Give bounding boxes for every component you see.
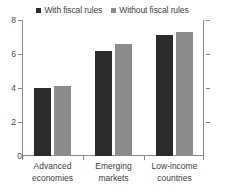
y-tick-8: 8 (2, 15, 22, 25)
x-label-advanced-economies: Advanced economies (22, 161, 83, 184)
bars-layer (22, 20, 204, 156)
y-tick-dash-right-8 (206, 20, 210, 21)
legend-label: With fiscal rules (44, 6, 102, 15)
bar-without-fiscal-rules (54, 86, 71, 156)
legend-swatch-icon (36, 8, 41, 13)
x-axis-separator-tick (144, 156, 145, 160)
y-tick-4: 4 (2, 83, 22, 93)
y-tick-dash-right-2 (206, 122, 210, 123)
bar-without-fiscal-rules (176, 32, 193, 156)
y-tick-0: 0 (2, 151, 22, 161)
y-tick-dash-right-6 (206, 54, 210, 55)
x-label-line2: countries (144, 173, 205, 185)
x-label-low-income-countries: Low-income countries (144, 161, 205, 184)
x-label-line2: markets (83, 173, 144, 185)
y-tick-label: 6 (11, 50, 16, 59)
y-tick-label: 8 (11, 16, 16, 25)
legend-swatch-icon (111, 8, 116, 13)
plot-area: 0 2 4 6 8 (22, 20, 204, 156)
y-tick-6: 6 (2, 49, 22, 59)
x-label-line2: economies (22, 173, 83, 185)
bar-with-fiscal-rules (95, 51, 112, 156)
legend-entry-with-fiscal-rules: With fiscal rules (36, 6, 102, 15)
y-tick-2: 2 (2, 117, 22, 127)
x-label-line1: Low-income (144, 161, 205, 173)
bar-group-low-income-countries (151, 20, 198, 156)
x-axis-separator-tick (22, 156, 23, 160)
x-label-line1: Emerging (83, 161, 144, 173)
y-tick-label: 4 (11, 84, 16, 93)
x-axis-separator-tick (83, 156, 84, 160)
legend-entry-without-fiscal-rules: Without fiscal rules (111, 6, 188, 15)
x-label-line1: Advanced (22, 161, 83, 173)
bar-with-fiscal-rules (156, 35, 173, 156)
x-label-emerging-markets: Emerging markets (83, 161, 144, 184)
bar-with-fiscal-rules (34, 88, 51, 156)
x-axis-separator-tick (203, 156, 204, 160)
y-tick-label: 2 (11, 118, 16, 127)
legend-label: Without fiscal rules (119, 6, 188, 15)
y-tick-dash-right-4 (206, 88, 210, 89)
bar-without-fiscal-rules (115, 44, 132, 156)
x-axis-labels: Advanced economies Emerging markets Low-… (22, 161, 204, 193)
chart-legend: With fiscal rules Without fiscal rules (0, 3, 225, 17)
bar-group-advanced-economies (29, 20, 76, 156)
bar-group-emerging-markets (90, 20, 137, 156)
bar-chart: With fiscal rules Without fiscal rules 0… (0, 0, 225, 196)
